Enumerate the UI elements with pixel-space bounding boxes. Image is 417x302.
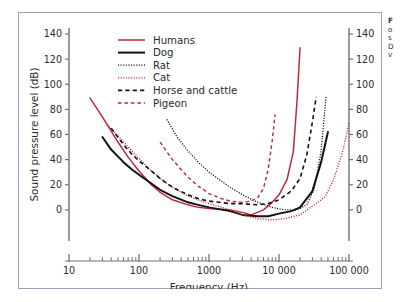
y-tick-label-right: 100 <box>356 79 374 90</box>
series-line-humans <box>90 48 300 215</box>
x-tick-label: 100 <box>130 265 148 276</box>
x-tick-label: 100 000 <box>329 265 369 276</box>
y-tick-label-right: 60 <box>356 129 368 140</box>
y-axis-title: Sound pressure level (dB) <box>28 67 40 201</box>
legend-label-dog: Dog <box>153 47 174 58</box>
caption-line: v <box>388 51 417 60</box>
x-axis-title: Frequency (Hz) <box>170 281 248 289</box>
x-tick-label: 10 <box>63 265 75 276</box>
legend-label-humans: Humans <box>153 35 195 46</box>
plot-layer: 0204060801001201400204060801001201401010… <box>28 28 374 289</box>
figure-caption: FosDv <box>388 17 417 77</box>
y-tick-label-right: 20 <box>356 179 368 190</box>
y-tick-label-right: 80 <box>356 104 368 115</box>
legend-label-pigeon: Pigeon <box>153 98 187 109</box>
series-line-rat <box>167 97 326 210</box>
x-tick-label: 10 000 <box>262 265 296 276</box>
y-tick-label-left: 140 <box>44 28 62 39</box>
caption-line: o <box>388 26 417 35</box>
y-tick-label-left: 0 <box>56 204 62 215</box>
y-tick-label-left: 40 <box>50 154 62 165</box>
caption-line: D <box>388 43 417 52</box>
y-tick-label-left: 100 <box>44 79 62 90</box>
y-tick-label-left: 120 <box>44 54 62 65</box>
y-tick-label-left: 20 <box>50 179 62 190</box>
x-tick-label: 1000 <box>197 265 221 276</box>
legend-label-rat: Rat <box>153 60 170 71</box>
y-tick-label-left: 80 <box>50 104 62 115</box>
legend-label-horse-and-cattle: Horse and cattle <box>153 85 237 96</box>
hearing-range-chart: 0204060801001201400204060801001201401010… <box>18 12 382 289</box>
legend-label-cat: Cat <box>153 72 170 83</box>
y-tick-label-right: 120 <box>356 54 374 65</box>
series-line-cat <box>107 123 349 220</box>
figure-root: 0204060801001201400204060801001201401010… <box>0 0 417 302</box>
y-tick-label-right: 40 <box>356 154 368 165</box>
y-tick-label-right: 140 <box>356 28 374 39</box>
caption-line: F <box>388 17 417 26</box>
caption-line: s <box>388 34 417 43</box>
y-tick-label-left: 60 <box>50 129 62 140</box>
series-line-horse-and-cattle <box>111 97 316 205</box>
y-tick-label-right: 0 <box>356 204 362 215</box>
